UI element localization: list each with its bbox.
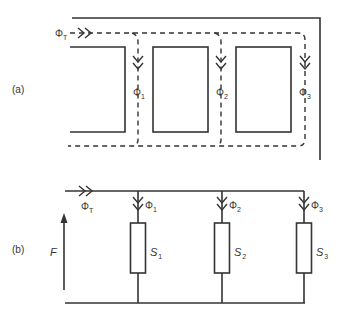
flux-2-label-a: Φ2 xyxy=(216,87,228,100)
reluctance-s3 xyxy=(297,223,312,273)
flux-2-label-b: Φ2 xyxy=(229,200,241,213)
branch-3 xyxy=(297,191,312,303)
part-b-labels: (b) F ΦT Φ1 Φ2 Φ3 S1 S2 S3 xyxy=(12,200,328,260)
branch-1 xyxy=(131,191,146,303)
core-left-window xyxy=(70,47,125,132)
flux-path-outer xyxy=(68,33,305,146)
part-a-label: (a) xyxy=(12,84,24,95)
flux-total-label-b: ΦT xyxy=(81,201,94,214)
core-window-2 xyxy=(236,47,291,132)
reluctance-s1-label: S1 xyxy=(150,246,162,260)
diagram-canvas: (a) ΦT Φ1 Φ2 Φ3 xyxy=(0,0,341,315)
mmf-arrow-icon xyxy=(61,213,68,290)
core-outer-top-right xyxy=(72,18,320,160)
part-b-circuit xyxy=(61,186,312,303)
reluctance-s2-label: S2 xyxy=(234,246,246,260)
flux-3-label-b: Φ3 xyxy=(311,200,323,213)
branch-2 xyxy=(215,191,230,303)
part-a-flux-paths xyxy=(68,28,310,146)
part-a-core xyxy=(70,18,320,160)
flux-1-label-a: Φ1 xyxy=(133,87,145,100)
reluctance-s1 xyxy=(131,223,146,273)
reluctance-s3-label: S3 xyxy=(316,246,328,260)
mmf-label: F xyxy=(50,246,58,258)
core-window-1 xyxy=(153,47,208,132)
part-b-label: (b) xyxy=(12,244,24,255)
part-a-labels: (a) ΦT Φ1 Φ2 Φ3 xyxy=(12,28,311,100)
reluctance-s2 xyxy=(215,223,230,273)
flux-1-label-b: Φ1 xyxy=(145,200,157,213)
flux-total-label-a: ΦT xyxy=(55,28,68,41)
flux-arrow-3-icon xyxy=(300,56,310,69)
